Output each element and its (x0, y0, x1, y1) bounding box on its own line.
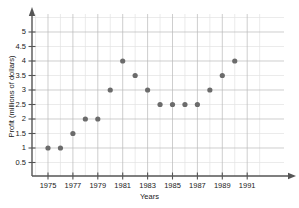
x-axis-arrowhead (288, 173, 296, 179)
grid-minor-lines (32, 14, 284, 176)
data-point (182, 102, 187, 107)
x-tick-label: 1981 (114, 182, 131, 190)
data-point (133, 73, 138, 78)
data-point (207, 87, 212, 92)
data-point (83, 116, 88, 121)
grid-major-lines (32, 14, 284, 176)
x-tick-label: 1985 (164, 182, 181, 190)
axis-lines (29, 7, 296, 179)
x-tick-label: 1989 (214, 182, 231, 190)
x-tick-label: 1983 (139, 182, 156, 190)
y-axis-arrowhead (29, 7, 35, 16)
data-point (145, 87, 150, 92)
x-tick-label: 1991 (239, 182, 256, 190)
data-point (58, 145, 63, 150)
data-point (95, 116, 100, 121)
plot-canvas (0, 0, 299, 208)
data-point (195, 102, 200, 107)
x-tick-label: 1975 (40, 182, 57, 190)
data-point (232, 58, 237, 63)
data-point (45, 145, 50, 150)
data-point (157, 102, 162, 107)
x-tick-label: 1977 (65, 182, 82, 190)
axis-tick-marks (29, 32, 248, 180)
data-point (220, 73, 225, 78)
x-tick-label: 1987 (189, 182, 206, 190)
x-tick-label: 1979 (89, 182, 106, 190)
data-point (70, 131, 75, 136)
x-axis-title: Years (0, 192, 299, 201)
y-tick-label: 0.5 (0, 159, 26, 167)
data-point (108, 87, 113, 92)
scatter-plot-figure: 0.511.522.533.544.55 1975197719791981198… (0, 0, 299, 208)
data-point (120, 58, 125, 63)
y-axis-title: Profit (millions of dollars) (7, 37, 16, 157)
y-tick-label: 5 (0, 28, 26, 36)
data-point (170, 102, 175, 107)
